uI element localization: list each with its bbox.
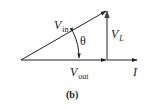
figure-caption: (b)	[66, 90, 78, 100]
theta-angle-arc	[73, 32, 79, 58]
phasor-diagram: Vin θ VL Vout I (b)	[0, 0, 149, 109]
vout-label-sub: out	[78, 72, 88, 81]
vin-label: Vin	[54, 19, 69, 31]
current-label: I	[133, 66, 137, 78]
vin-label-main: V	[54, 18, 61, 32]
vin-label-sub: in	[62, 25, 68, 34]
vl-label: VL	[111, 28, 124, 40]
vout-label-main: V	[70, 65, 77, 79]
theta-label: θ	[80, 35, 86, 47]
vout-label: Vout	[70, 66, 89, 78]
vl-label-sub: L	[119, 34, 123, 43]
vl-label-main: V	[111, 27, 118, 41]
